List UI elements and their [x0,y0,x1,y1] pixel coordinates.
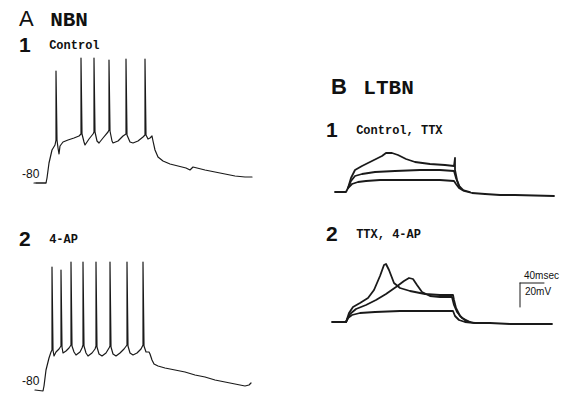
trace-b2-small [332,311,552,324]
scale-bar [520,283,544,307]
trace-a1-control [34,58,252,183]
trace-a2-4ap [35,262,251,391]
traces-canvas [0,0,571,402]
trace-b1-small [335,180,554,196]
